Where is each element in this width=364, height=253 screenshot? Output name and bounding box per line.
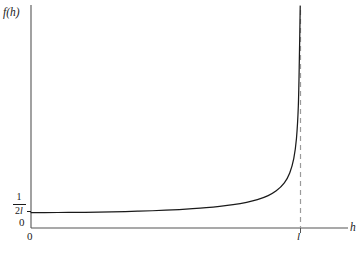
fraction-denominator: 2l [9,206,29,217]
x-axis-asymptote-tick-label: l [297,231,300,242]
density-curve [31,6,300,213]
y-axis-origin-tick-label: 0 [19,217,25,228]
x-axis-origin-tick-label: 0 [27,231,33,242]
y-axis-label: f(h) [3,7,20,19]
plot-area [0,0,364,253]
fraction-numerator: 1 [9,192,29,203]
y-axis-half-l-tick-label: 1 2l [9,192,29,216]
chart-figure: f(h) h 0 0 l 1 2l [0,0,364,253]
fraction-denominator-symbol: l [20,205,23,216]
x-axis-label: h [350,222,356,234]
